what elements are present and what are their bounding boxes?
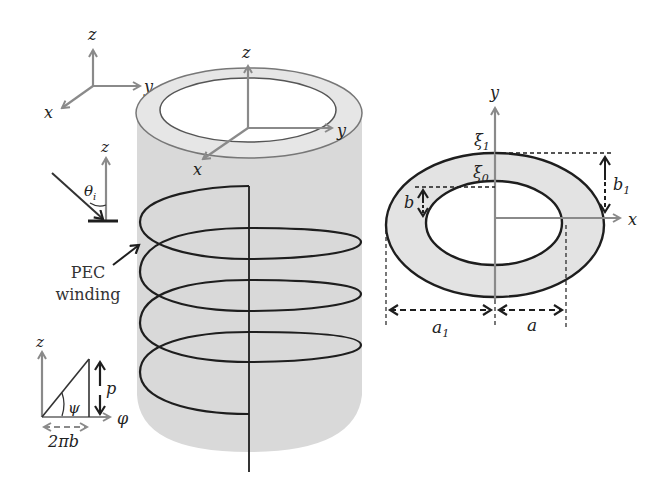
angle-arc xyxy=(90,203,106,206)
global-z-label: z xyxy=(87,25,97,44)
psi-arc xyxy=(62,393,64,416)
a-label: a xyxy=(527,315,537,335)
pitch-inset: z φ ψ p 2πb xyxy=(35,333,129,451)
b1-label: b1 xyxy=(613,175,630,197)
cyl-x-label: x xyxy=(193,160,202,179)
pec-winding-callout: PEC winding xyxy=(55,245,139,304)
cross-section: y x ξ1 ξ0 b1 b a1 a xyxy=(386,83,637,340)
xi1-label: ξ1 xyxy=(474,131,490,153)
psi-label: ψ xyxy=(68,399,80,417)
inset-phi-label: φ xyxy=(117,409,129,428)
section-x-label: x xyxy=(628,210,637,229)
base-2pib-label: 2πb xyxy=(47,432,79,451)
theta-label: θi xyxy=(84,182,96,202)
incidence-angle: z θi xyxy=(52,138,118,221)
pec-label-line2: winding xyxy=(55,285,120,304)
pec-label-line1: PEC xyxy=(71,263,106,282)
cyl-z-label: z xyxy=(241,43,251,62)
section-y-label: y xyxy=(489,83,500,102)
global-x-label: x xyxy=(44,103,53,122)
pec-pointer-arrow xyxy=(113,245,139,265)
global-x-axis xyxy=(62,86,93,108)
p-label: p xyxy=(106,379,116,398)
incidence-z-label: z xyxy=(100,138,109,156)
inset-z-label: z xyxy=(35,333,44,351)
cyl-y-label: y xyxy=(336,121,347,140)
b-label: b xyxy=(404,193,414,212)
a1-label: a1 xyxy=(432,317,449,340)
helix-cylinder-diagram: z y x z θi z y x PEC winding xyxy=(0,0,664,480)
cylinder: z y x xyxy=(136,43,362,472)
helix-pitch-line xyxy=(42,359,89,417)
